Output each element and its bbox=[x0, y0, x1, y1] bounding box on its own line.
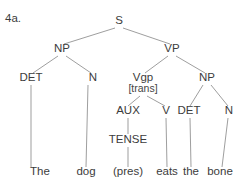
edge-npobj-det bbox=[190, 85, 203, 106]
node-np-subject: NP bbox=[54, 42, 70, 54]
terminal-eats: eats bbox=[156, 165, 178, 177]
terminal-dog: dog bbox=[76, 165, 95, 177]
edge-v-eats bbox=[166, 118, 167, 167]
terminal-bone: bone bbox=[207, 165, 233, 177]
node-n-object: N bbox=[225, 104, 233, 116]
edge-n-dog bbox=[86, 85, 88, 167]
node-v: V bbox=[162, 104, 170, 116]
tree-canvas: 4a. S NP VP DET N Vgp [trans] NP AUX V D… bbox=[0, 0, 247, 189]
node-aux: AUX bbox=[116, 104, 140, 116]
edge-s-vp bbox=[123, 28, 170, 44]
terminal-pres: (pres) bbox=[113, 165, 143, 177]
terminal-the: The bbox=[30, 165, 50, 177]
node-tense: TENSE bbox=[109, 133, 148, 145]
node-det-object: DET bbox=[178, 104, 201, 116]
item-number-label: 4a. bbox=[5, 12, 21, 24]
edge-s-np bbox=[64, 28, 115, 44]
edge-npobj-n bbox=[211, 85, 228, 106]
edge-nobj-bone bbox=[222, 118, 228, 167]
node-np-object: NP bbox=[199, 71, 215, 83]
terminal-words-group: Thedog(pres)eatsthebone bbox=[30, 165, 233, 177]
node-vgp-feature-trans: [trans] bbox=[128, 82, 157, 94]
node-vp: VP bbox=[164, 42, 180, 54]
edge-np-n bbox=[66, 56, 91, 73]
terminal-the2: the bbox=[183, 165, 199, 177]
edge-detobj-the bbox=[190, 118, 191, 167]
node-det-subject: DET bbox=[20, 71, 43, 83]
node-s: S bbox=[115, 14, 123, 26]
syntax-tree-figure: · · · 4a. S NP VP DET N Vgp [trans] NP A… bbox=[0, 0, 247, 189]
node-n-subject: N bbox=[89, 71, 97, 83]
